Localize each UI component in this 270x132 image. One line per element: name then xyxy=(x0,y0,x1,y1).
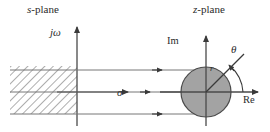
figure-canvas xyxy=(0,0,270,132)
s-plane-to-z-plane-figure: s-plane z-plane jω σ Im Re θ r xyxy=(0,0,270,132)
s-plane-title-suffix: -plane xyxy=(31,3,58,15)
z-plane-title-suffix: -plane xyxy=(197,3,224,15)
im-axis-label: Im xyxy=(167,36,179,47)
s-plane-hatched-region xyxy=(10,66,77,114)
radius-label: r xyxy=(210,64,214,73)
z-plane-title: z-plane xyxy=(193,4,225,15)
sigma-axis-label: σ xyxy=(117,87,122,98)
j-omega-axis-label: jω xyxy=(50,27,61,38)
re-axis-label: Re xyxy=(243,95,255,106)
theta-angle-label: θ xyxy=(231,44,236,55)
s-plane-title: s-plane xyxy=(27,4,59,15)
